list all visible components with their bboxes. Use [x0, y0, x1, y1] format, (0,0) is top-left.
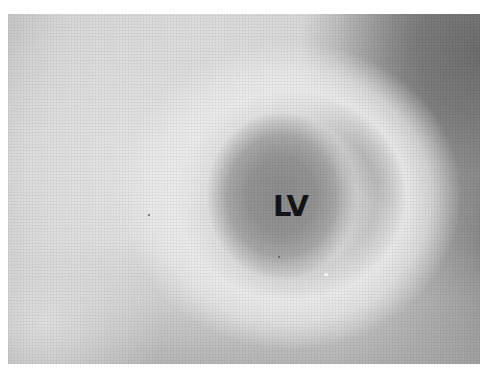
speck: [278, 256, 280, 258]
cardiac-image: LV: [8, 14, 480, 364]
screen-texture: [8, 14, 480, 364]
highlight-speck: [324, 273, 328, 276]
lv-label: LV: [273, 192, 308, 221]
speck: [148, 214, 150, 216]
